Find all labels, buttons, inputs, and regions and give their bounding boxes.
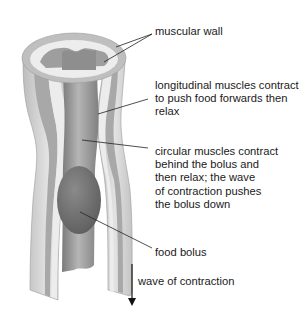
peristalsis-diagram: muscular wall longitudinal muscles contr… xyxy=(0,0,308,315)
label-circular-muscles: circular muscles contract behind the bol… xyxy=(155,145,278,211)
label-food-bolus: food bolus xyxy=(155,246,207,259)
food-bolus xyxy=(57,166,101,234)
label-wave-of-contraction: wave of contraction xyxy=(138,275,234,288)
label-muscular-wall: muscular wall xyxy=(155,25,223,38)
label-longitudinal-muscles: longitudinal muscles contract to push fo… xyxy=(155,79,299,119)
